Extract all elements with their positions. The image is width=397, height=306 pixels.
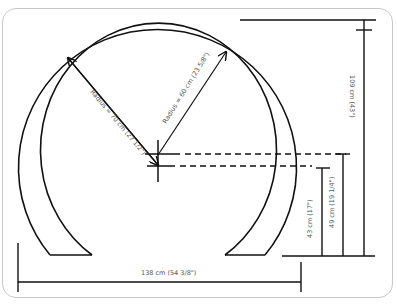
height-43-label: 43 cm (17") [306,199,314,238]
radius-outer-label: Radius = 70 cm (27 1/2") [88,88,147,156]
height-49-label: 49 cm (19 1/4") [328,177,336,228]
width-label: 138 cm (54 3/8") [141,269,196,277]
center-mark [145,140,180,182]
radius-inner-label: Radius = 60 cm (23 5/8") [161,51,212,125]
total-height-label: 109 cm (43") [348,75,356,118]
width-dimension [18,243,301,292]
arch-shape [19,23,297,255]
arch-diagram: Radius = 70 cm (27 1/2") Radius = 60 cm … [0,0,397,306]
dashed-guides [180,154,346,166]
